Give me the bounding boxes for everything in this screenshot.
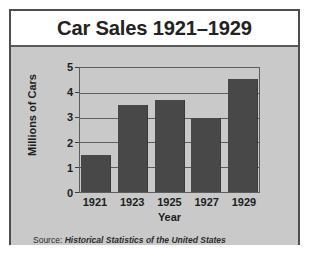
bar-series [80, 68, 259, 192]
bar[interactable] [118, 105, 148, 192]
x-axis-label: Year [79, 211, 260, 223]
x-tick-label: 1923 [117, 196, 147, 208]
y-tick-label: 1 [59, 162, 73, 174]
x-tick-label: 1925 [155, 196, 185, 208]
x-tick-label: 1921 [80, 196, 110, 208]
plot-area [79, 67, 260, 193]
bar[interactable] [228, 79, 258, 192]
y-axis-tick-labels: 5 4 3 2 1 0 [59, 67, 73, 193]
y-tick-label: 4 [59, 86, 73, 98]
x-axis-tick-labels: 1921 1923 1925 1927 1929 [79, 196, 260, 208]
y-tick-label: 5 [59, 61, 73, 73]
page-title: Car Sales 1921–1929 [57, 16, 252, 40]
source-note: Source: Historical Statistics of the Uni… [33, 235, 226, 245]
y-axis-label: Millions of Cars [26, 70, 38, 160]
bar[interactable] [191, 118, 221, 192]
y-tick-label: 3 [59, 111, 73, 123]
chart-title-band: Car Sales 1921–1929 [11, 11, 298, 47]
bar[interactable] [81, 155, 111, 192]
chart-figure: Car Sales 1921–1929 Millions of Cars 5 4… [9, 9, 300, 245]
source-label: Source: [33, 235, 62, 245]
chart-body: Millions of Cars 5 4 3 2 1 0 [11, 47, 298, 245]
y-tick-label: 0 [59, 187, 73, 199]
source-publication: Historical Statistics of the United Stat… [65, 235, 226, 245]
x-tick-label: 1927 [192, 196, 222, 208]
x-tick-label: 1929 [229, 196, 259, 208]
bar[interactable] [155, 100, 185, 192]
y-tick-label: 2 [59, 137, 73, 149]
